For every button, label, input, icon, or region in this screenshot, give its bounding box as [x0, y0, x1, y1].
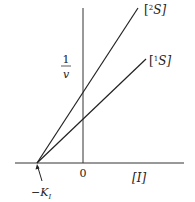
line-1s	[37, 59, 146, 163]
label-2s: [2S]	[144, 3, 166, 17]
arrow-head-icon	[36, 164, 40, 170]
label-1s: [1S]	[149, 54, 171, 68]
x-label: [I]	[132, 171, 146, 185]
origin-label: 0	[80, 167, 87, 180]
y-label-numerator: 1	[63, 53, 70, 66]
intercept-label: −KI	[31, 186, 51, 201]
lineweaver-burk-plot: [2S] [1S] 1 v 0 [I] −KI	[0, 0, 195, 202]
y-label-denominator: v	[63, 68, 70, 81]
line-2s	[37, 8, 138, 163]
